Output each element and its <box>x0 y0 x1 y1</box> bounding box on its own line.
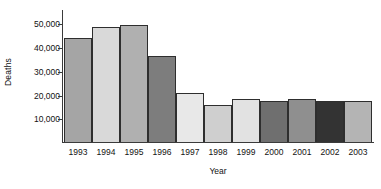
bar-2000 <box>260 101 288 142</box>
x-axis-tick-labels: 1993199419951996199719981999200020012002… <box>64 147 372 157</box>
bar-chart-figure: Deaths 10,00020,00030,00040,00050,000 19… <box>0 0 381 189</box>
y-axis-line <box>62 10 63 143</box>
y-tick-mark <box>58 72 62 73</box>
y-axis-title-text: Deaths <box>3 57 13 85</box>
bar-1994 <box>92 27 120 143</box>
x-tick-label: 1994 <box>92 147 120 157</box>
y-tick-label: 40,000 <box>34 43 60 53</box>
y-tick-mark <box>58 48 62 49</box>
y-tick-label: 10,000 <box>34 114 60 124</box>
bar-1999 <box>232 99 260 142</box>
x-tick-label: 1999 <box>232 147 260 157</box>
bar-2003 <box>344 101 372 142</box>
bar-1998 <box>204 105 232 142</box>
bar-1993 <box>64 38 92 142</box>
x-tick-label: 1997 <box>176 147 204 157</box>
x-tick-label: 2003 <box>344 147 372 157</box>
y-tick-label: 20,000 <box>34 91 60 101</box>
y-tick-label: 30,000 <box>34 67 60 77</box>
bar-2001 <box>288 99 316 142</box>
bar-2002 <box>316 101 344 142</box>
bar-1997 <box>176 93 204 143</box>
y-tick-label: 50,000 <box>34 19 60 29</box>
bar-1995 <box>120 25 148 142</box>
x-tick-label: 1996 <box>148 147 176 157</box>
y-tick-mark <box>58 119 62 120</box>
x-tick-label: 2001 <box>288 147 316 157</box>
x-tick-label: 1995 <box>120 147 148 157</box>
x-tick-label: 2002 <box>316 147 344 157</box>
x-tick-label: 1998 <box>204 147 232 157</box>
x-axis-title: Year <box>62 166 374 176</box>
y-axis-tick-labels: 10,00020,00030,00040,00050,000 <box>14 0 60 150</box>
bar-series <box>64 10 372 142</box>
y-tick-mark <box>58 96 62 97</box>
y-tick-mark <box>58 24 62 25</box>
bar-1996 <box>148 56 176 142</box>
x-tick-label: 1993 <box>64 147 92 157</box>
plot-area <box>62 10 374 143</box>
x-tick-label: 2000 <box>260 147 288 157</box>
x-axis-line <box>62 142 374 143</box>
